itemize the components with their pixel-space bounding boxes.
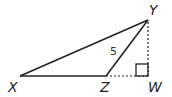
triangle-diagram: Y X Z W 5 — [0, 0, 172, 97]
segment-xy — [20, 20, 148, 76]
label-z: Z — [99, 79, 110, 95]
right-angle-marker — [136, 64, 148, 76]
label-y: Y — [149, 2, 159, 18]
label-x: X — [7, 79, 18, 95]
side-length-label: 5 — [110, 45, 117, 58]
label-w: W — [148, 79, 163, 95]
